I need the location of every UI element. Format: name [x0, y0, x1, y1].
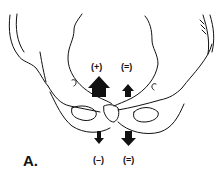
small-down-arrow-icon	[94, 131, 104, 144]
label-lower-right: (=)	[123, 155, 134, 165]
label-lower-left: (–)	[93, 155, 104, 165]
label-upper-left: (+)	[91, 62, 102, 72]
pelvis-line-art	[0, 0, 221, 176]
panel-label: A.	[23, 152, 38, 169]
small-up-arrow-icon	[122, 84, 134, 97]
label-upper-right: (=)	[121, 62, 132, 72]
pelvis-diagram: (+) (=) (–) (=) A.	[0, 0, 221, 176]
medium-down-arrow-icon	[121, 131, 136, 146]
